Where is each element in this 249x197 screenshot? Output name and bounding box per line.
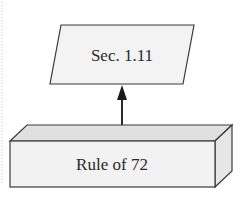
box-top-face	[10, 125, 232, 141]
node-sec-1-11: Sec. 1.11	[50, 25, 194, 84]
node-label-rule72: Rule of 72	[76, 155, 148, 174]
arrowhead-up-icon	[117, 85, 127, 100]
node-rule-of-72: Rule of 72	[10, 125, 232, 187]
flow-diagram: Sec. 1.11 Rule of 72	[0, 0, 249, 197]
node-label-sec: Sec. 1.11	[91, 46, 153, 65]
